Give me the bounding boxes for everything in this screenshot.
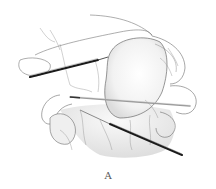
colon-right <box>170 86 196 114</box>
figure-caption: A <box>0 170 216 181</box>
surgical-illustration <box>0 0 216 189</box>
instrument-upper-left <box>30 57 108 77</box>
stomach <box>105 38 167 118</box>
